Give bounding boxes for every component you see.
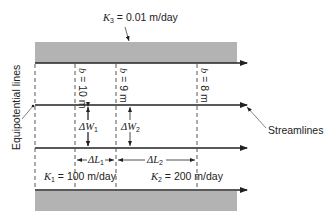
k3-label: K3 = 0.01 m/day — [102, 11, 179, 24]
delta-l1-label: ΔL1 — [87, 154, 104, 166]
equipotential-pointer — [22, 106, 33, 119]
b-label-2: b = 9 m — [118, 68, 130, 103]
b-label-3: b = 8 m — [199, 68, 211, 103]
delta-l2-label: ΔL2 — [146, 154, 163, 166]
k2-label: K2 = 200 m/day — [150, 170, 224, 183]
streamlines-pointer — [247, 107, 266, 128]
b-label-1: b = 10 m — [77, 68, 89, 109]
k1-label: K1 = 100 m/day — [43, 170, 117, 183]
flow-net-diagram: K3 = 0.01 m/day b = 10 m b = 9 m b = 8 m… — [0, 0, 330, 221]
bottom-confining-layer — [35, 191, 237, 211]
k3-pointer — [125, 27, 129, 41]
top-confining-layer — [35, 42, 237, 63]
streamlines-callout: Streamlines — [268, 124, 323, 136]
equipotential-pointer-dot — [32, 105, 35, 108]
equipotential-callout: Equipotential lines — [10, 65, 22, 150]
